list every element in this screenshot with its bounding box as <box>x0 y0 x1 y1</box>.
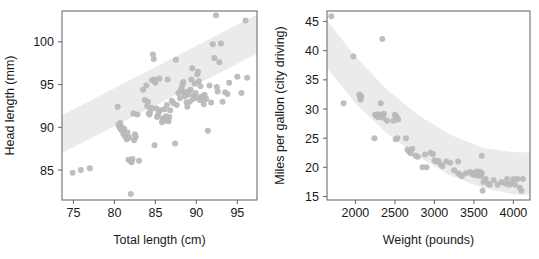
data-point <box>520 176 526 182</box>
data-point <box>487 182 493 188</box>
x-axis-tick-label: 80 <box>107 206 121 220</box>
data-point <box>430 151 436 157</box>
data-point <box>491 177 497 183</box>
figure-two-scatterplots: 7580859095859095100Total length (cm)Head… <box>0 0 539 259</box>
data-point <box>243 17 249 23</box>
data-point <box>514 176 520 182</box>
data-point <box>504 176 510 182</box>
data-point <box>125 129 131 135</box>
data-point <box>210 41 216 47</box>
data-point <box>172 141 178 147</box>
data-point <box>205 128 211 134</box>
y-axis-tick-label: 25 <box>305 132 319 146</box>
x-axis-tick-label: 2500 <box>381 206 409 220</box>
data-point <box>447 160 453 166</box>
data-point <box>166 114 172 120</box>
data-point <box>479 170 485 176</box>
data-point <box>167 107 173 113</box>
data-point <box>415 154 421 160</box>
panel-mpg-vs-weight: 2000250030003500400015202530354045Weight… <box>270 0 539 259</box>
data-point <box>165 76 171 82</box>
data-point <box>128 191 134 197</box>
data-point <box>341 100 347 106</box>
data-point <box>409 146 415 152</box>
x-axis-tick-label: 4000 <box>500 206 528 220</box>
data-point <box>358 93 364 99</box>
data-point <box>203 96 209 102</box>
data-point <box>213 12 219 18</box>
data-point <box>145 99 151 105</box>
x-axis-tick-label: 3500 <box>460 206 488 220</box>
data-point <box>225 91 231 97</box>
y-axis-title: Head length (mm) <box>3 55 17 155</box>
data-point <box>151 56 157 62</box>
data-point <box>180 79 186 85</box>
data-point <box>455 159 461 165</box>
x-axis-tick-label: 90 <box>189 206 203 220</box>
data-point <box>371 135 377 141</box>
data-point <box>220 99 226 105</box>
data-point <box>174 102 180 108</box>
data-point <box>157 76 163 82</box>
data-point <box>196 78 202 84</box>
right-scatter-svg: 2000250030003500400015202530354045Weight… <box>270 0 539 259</box>
data-point <box>479 153 485 159</box>
x-axis-title: Total length (cm) <box>113 233 205 247</box>
data-point <box>130 111 136 117</box>
data-point <box>78 167 84 173</box>
data-point <box>164 102 170 108</box>
data-point <box>394 135 400 141</box>
y-axis-tick-label: 95 <box>40 78 54 92</box>
data-point <box>184 104 190 110</box>
data-point <box>376 112 382 118</box>
data-point <box>201 101 207 107</box>
data-point <box>136 158 142 164</box>
data-point <box>70 170 76 176</box>
data-point <box>422 152 428 158</box>
y-axis-tick-label: 15 <box>305 190 319 204</box>
data-point <box>197 83 203 89</box>
x-axis-tick-label: 95 <box>230 206 244 220</box>
y-axis-tick-label: 20 <box>305 161 319 175</box>
data-point <box>208 100 214 106</box>
panel-head-length-vs-total-length: 7580859095859095100Total length (cm)Head… <box>0 0 270 259</box>
x-axis-tick-label: 3000 <box>421 206 449 220</box>
data-point <box>378 100 384 106</box>
data-point <box>226 80 232 86</box>
data-point <box>211 55 217 61</box>
x-axis-tick-label: 85 <box>148 206 162 220</box>
data-point <box>238 90 244 96</box>
data-point <box>218 41 224 47</box>
data-point <box>143 82 149 88</box>
data-point <box>133 134 139 140</box>
y-axis-tick-label: 30 <box>305 103 319 117</box>
x-axis-tick-label: 75 <box>67 206 81 220</box>
y-axis-tick-label: 45 <box>305 15 319 29</box>
data-point <box>403 135 409 141</box>
data-point <box>439 163 445 169</box>
data-point <box>244 75 250 81</box>
data-point <box>152 142 158 148</box>
data-point <box>206 82 212 88</box>
data-point <box>480 188 486 194</box>
data-point <box>350 54 356 60</box>
data-point <box>188 87 194 93</box>
data-point <box>518 188 524 194</box>
y-axis-tick-label: 85 <box>40 164 54 178</box>
y-axis-tick-label: 40 <box>305 44 319 58</box>
data-point <box>125 157 131 163</box>
left-scatter-svg: 7580859095859095100Total length (cm)Head… <box>0 0 270 259</box>
data-point <box>173 57 179 63</box>
data-point <box>395 117 401 123</box>
y-axis-tick-label: 90 <box>40 121 54 135</box>
data-point <box>87 165 93 171</box>
data-point <box>424 164 430 170</box>
data-point <box>328 13 334 19</box>
x-axis-tick-label: 2000 <box>342 206 370 220</box>
data-point <box>384 118 390 124</box>
data-point <box>189 65 195 71</box>
y-axis-tick-label: 35 <box>305 73 319 87</box>
data-point <box>115 104 121 110</box>
data-point <box>215 88 221 94</box>
data-point <box>379 36 385 42</box>
